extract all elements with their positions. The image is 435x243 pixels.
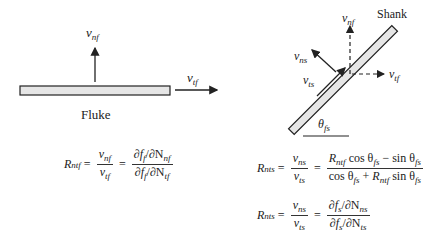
fluke-normal-label: vnf [86, 26, 99, 42]
shank-normal-label: vns [294, 50, 307, 65]
velocity-fraction: vns vts [291, 199, 308, 233]
velocity-fraction: vns vts [291, 152, 308, 186]
angle-label: θfs [318, 118, 330, 133]
shank-ratio-trig-equation: Rnts = vns vts = Rntf cos θfs − sin θfs … [257, 152, 426, 186]
fluke-ratio-equation: Rntf = vnf vtf = ∂ff/∂Nnf ∂ff/∂Ntf [64, 148, 176, 182]
trig-fraction: Rntf cos θfs − sin θfs cos θfs + Rntf si… [327, 152, 423, 186]
velocity-fraction: vnf vtf [97, 148, 113, 182]
shank-ratio-derivative-equation: Rnts = vns vts = ∂fs/∂Nns ∂fs/∂Nts [257, 199, 373, 233]
shank-tangential-label: vts [303, 74, 314, 89]
shank-fluke-tangential-label: vtf [389, 68, 399, 83]
derivative-fraction: ∂fs/∂Nns ∂fs/∂Nts [327, 199, 370, 233]
shank-normal-arrow [312, 50, 336, 72]
derivative-fraction: ∂ff/∂Nnf ∂ff/∂Ntf [132, 148, 173, 182]
fluke-title: Fluke [81, 108, 111, 121]
shank-fluke-normal-label: vnf [342, 12, 354, 27]
fluke-tangential-label: vtf [187, 71, 198, 87]
fluke-bar [20, 86, 170, 95]
shank-title: Shank [377, 8, 407, 20]
